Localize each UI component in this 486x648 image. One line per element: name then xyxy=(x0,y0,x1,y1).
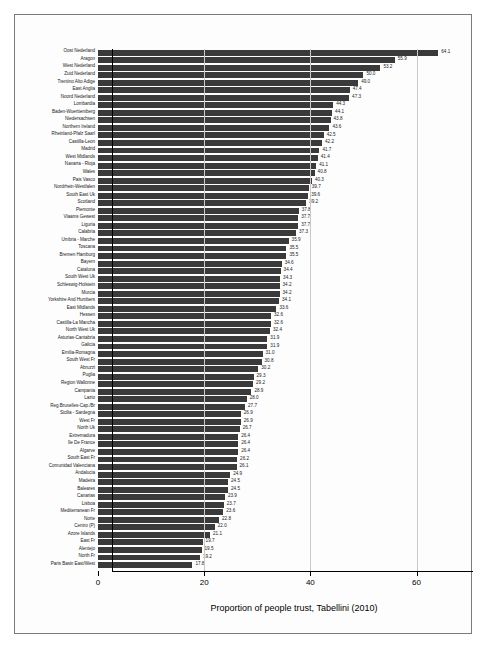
bar-value-label: 42.2 xyxy=(325,138,334,146)
bar-category-label: South East Uk xyxy=(66,191,95,199)
bar xyxy=(98,555,200,561)
x-tick xyxy=(98,571,99,576)
bar-category-label: Andalucia xyxy=(75,469,95,477)
bar-category-label: Vlaams Gewest xyxy=(63,213,95,221)
bar xyxy=(98,208,299,214)
bar xyxy=(98,283,280,289)
bar-value-label: 24.5 xyxy=(231,485,240,493)
x-axis-line xyxy=(112,571,473,572)
bar xyxy=(98,389,251,395)
bar-category-label: Yorkshire And Humbers xyxy=(48,296,95,304)
bar-value-label: 37.8 xyxy=(302,206,311,214)
bar-category-label: Castilla-Leon xyxy=(69,138,95,146)
bar-category-label: Trentino Alto Adige xyxy=(58,78,95,86)
bar-value-label: 27.7 xyxy=(248,402,257,410)
bar-value-label: 37.3 xyxy=(299,228,308,236)
bar-category-label: Murcia xyxy=(82,289,95,297)
bar-category-label: Pais Vasco xyxy=(73,176,95,184)
bar-category-label: Mediterranean Fr xyxy=(61,507,95,515)
bar xyxy=(98,449,238,455)
bar xyxy=(98,193,308,199)
bar xyxy=(98,253,286,259)
bar-category-label: Emilia-Romagna xyxy=(62,349,95,357)
bar xyxy=(98,351,263,357)
bar xyxy=(98,464,237,470)
bar-category-label: Galicia xyxy=(81,341,95,349)
bar-category-label: Bremen Hamburg xyxy=(59,251,95,259)
bar-category-label: Niedersachsen xyxy=(65,115,95,123)
bar-category-label: Calabria xyxy=(78,228,95,236)
bar-value-label: 34.6 xyxy=(285,259,294,267)
bar xyxy=(98,396,247,402)
bar-category-label: Madrid xyxy=(81,145,95,153)
bar-value-label: 43.6 xyxy=(332,123,341,131)
bar xyxy=(98,366,258,372)
bar xyxy=(98,472,230,478)
bar xyxy=(98,359,262,365)
bar-category-label: Extremadura xyxy=(69,432,95,440)
bar xyxy=(98,215,298,221)
x-gridline xyxy=(310,49,311,571)
bar-value-label: 40.8 xyxy=(318,168,327,176)
bar-category-label: Lazio xyxy=(84,394,95,402)
bar-value-label: 23.7 xyxy=(227,500,236,508)
bar-value-label: 22.8 xyxy=(222,515,231,523)
bar xyxy=(98,381,253,387)
bar xyxy=(98,125,329,131)
bar-category-label: Canarias xyxy=(77,492,95,500)
bar-category-label: Puglia xyxy=(83,371,95,379)
bar-category-label: Region Wallonne xyxy=(61,379,95,387)
bar-value-label: 26.4 xyxy=(241,432,250,440)
bar xyxy=(98,328,270,334)
bar xyxy=(98,306,276,312)
bar-value-label: 35.5 xyxy=(289,244,298,252)
bar-value-label: 26.9 xyxy=(244,417,253,425)
bar-value-label: 26.1 xyxy=(240,462,249,470)
bar-value-label: 19.5 xyxy=(205,545,214,553)
bar-value-label: 24.9 xyxy=(233,470,242,478)
bar xyxy=(98,117,331,123)
bar-category-label: Lisboa xyxy=(82,500,95,508)
bar-category-label: Schleswig-Holstein xyxy=(57,281,95,289)
bar-category-label: Aragon xyxy=(80,55,95,63)
bar-category-label: Abruzzi xyxy=(80,364,95,372)
bar-value-label: 39.7 xyxy=(312,183,321,191)
bar-value-label: 23.6 xyxy=(226,507,235,515)
bar xyxy=(98,321,271,327)
x-axis-label: Proportion of people trust, Tabellini (2… xyxy=(113,603,475,613)
bar-category-label: Ile De France xyxy=(68,439,95,447)
bar-value-label: 22.0 xyxy=(218,522,227,530)
bar-category-label: West Midlands xyxy=(66,153,95,161)
bar-value-label: 55.9 xyxy=(398,55,407,63)
x-tick-label: 20 xyxy=(200,578,209,587)
bar-category-label: Cataluna xyxy=(77,266,95,274)
bar-value-label: 26.9 xyxy=(244,409,253,417)
bar xyxy=(98,87,350,93)
bar xyxy=(98,517,219,523)
bar-category-label: Madeira xyxy=(79,477,95,485)
bar-category-label: East Midlands xyxy=(67,304,95,312)
bar-value-label: 29.3 xyxy=(257,372,266,380)
bar-value-label: 44.1 xyxy=(335,108,344,116)
bar-category-label: Campania xyxy=(74,387,95,395)
x-tick xyxy=(310,571,311,576)
bar xyxy=(98,170,315,176)
bar xyxy=(98,72,363,78)
bar-category-label: Wales xyxy=(83,168,95,176)
bar xyxy=(98,434,238,440)
bar xyxy=(98,374,254,380)
x-gridline xyxy=(204,49,205,571)
bar-value-label: 26.4 xyxy=(241,447,250,455)
bar-category-label: Toscana xyxy=(78,243,95,251)
bar-category-label: Zuid Nederland xyxy=(64,70,95,78)
bar-category-label: Nordrhein-Westfalen xyxy=(54,183,95,191)
bar-category-label: North Uk xyxy=(77,424,95,432)
bar xyxy=(98,487,228,493)
bar xyxy=(98,110,332,116)
bar-category-label: Navarra - Rioja xyxy=(65,160,95,168)
bar xyxy=(98,419,241,425)
bar-category-label: West Fr xyxy=(79,417,95,425)
bar-category-label: Comunidad Valenciana xyxy=(49,462,95,470)
bar xyxy=(98,132,324,138)
bar-value-label: 23.9 xyxy=(228,492,237,500)
